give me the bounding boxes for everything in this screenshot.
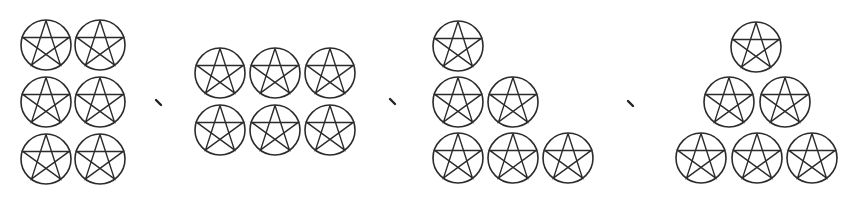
- pentagram-in-circle-icon: [195, 48, 245, 98]
- group-3x2-grid: [195, 48, 355, 155]
- group-staircase: [433, 21, 593, 183]
- group-pyramid: [676, 22, 837, 183]
- pentagram-in-circle-icon: [731, 22, 781, 72]
- pentagram-in-circle-icon: [75, 134, 125, 184]
- pentagram-in-circle-icon: [488, 77, 538, 127]
- pentagram-in-circle-icon: [21, 134, 71, 184]
- pentagram-in-circle-icon: [250, 48, 300, 98]
- pentagram-in-circle-icon: [676, 133, 726, 183]
- separator-comma-icon: [628, 101, 633, 106]
- pentagram-in-circle-icon: [543, 133, 593, 183]
- pentagram-in-circle-icon: [704, 77, 754, 127]
- separator-comma-icon: [156, 100, 161, 105]
- figure-svg: [0, 0, 859, 203]
- pentagram-in-circle-icon: [488, 133, 538, 183]
- pentagram-in-circle-icon: [732, 133, 782, 183]
- pentagram-in-circle-icon: [305, 105, 355, 155]
- pentagram-in-circle-icon: [21, 20, 71, 70]
- pentagram-in-circle-icon: [250, 105, 300, 155]
- pentagram-in-circle-icon: [433, 133, 483, 183]
- pentagram-in-circle-icon: [75, 20, 125, 70]
- pentagram-in-circle-icon: [433, 77, 483, 127]
- pentagram-in-circle-icon: [21, 77, 71, 127]
- pentagram-in-circle-icon: [433, 21, 483, 71]
- pentagram-in-circle-icon: [195, 105, 245, 155]
- pentagram-in-circle-icon: [75, 77, 125, 127]
- pentagram-in-circle-icon: [305, 48, 355, 98]
- pentagram-in-circle-icon: [787, 133, 837, 183]
- separator-comma-icon: [390, 99, 395, 104]
- group-2x3-grid: [21, 20, 125, 184]
- pentagram-arrangement-figure: [0, 0, 859, 203]
- pentagram-in-circle-icon: [760, 77, 810, 127]
